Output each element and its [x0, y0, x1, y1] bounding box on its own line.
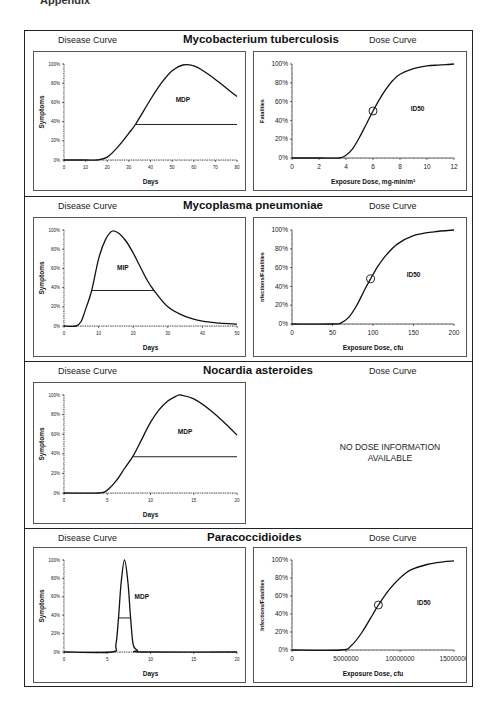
svg-text:0: 0 [63, 657, 66, 662]
svg-text:40%: 40% [51, 613, 60, 618]
svg-text:0%: 0% [53, 650, 60, 655]
svg-text:0%: 0% [53, 324, 60, 329]
svg-text:Days: Days [143, 178, 159, 186]
svg-text:60%: 60% [51, 594, 60, 599]
chart-svg: 0%20%40%60%80%100%0500000010000000150000… [254, 548, 466, 682]
svg-text:10: 10 [423, 163, 431, 170]
svg-text:Symptoms: Symptoms [38, 589, 46, 623]
svg-text:0: 0 [290, 655, 294, 662]
svg-text:12: 12 [450, 163, 458, 170]
svg-text:5000000: 5000000 [333, 655, 359, 662]
svg-text:40%: 40% [275, 117, 288, 124]
svg-text:40%: 40% [275, 283, 288, 290]
appendix-figure-frame: Disease Curve Mycobacterium tuberculosis… [24, 30, 473, 687]
svg-text:Days: Days [143, 511, 159, 519]
svg-text:5: 5 [106, 657, 109, 662]
svg-text:10000000: 10000000 [386, 655, 415, 662]
svg-text:0%: 0% [279, 154, 289, 161]
section-mycobacterium: Disease Curve Mycobacterium tuberculosis… [25, 31, 472, 196]
svg-text:80%: 80% [275, 574, 288, 581]
svg-text:ID50: ID50 [417, 599, 431, 606]
svg-text:50: 50 [170, 165, 176, 170]
svg-text:15000000: 15000000 [440, 655, 466, 662]
svg-text:Fatalities: Fatalities [259, 99, 265, 123]
dose-curve-label: Dose Curve [369, 35, 417, 45]
disease-curve-chart: 0%20%40%60%80%100%05101520DaysSymptomsMD… [33, 382, 246, 524]
svg-text:6: 6 [371, 163, 375, 170]
svg-text:MDP: MDP [176, 96, 191, 103]
svg-text:60%: 60% [51, 432, 60, 437]
disease-curve-label: Disease Curve [58, 35, 117, 45]
svg-text:nfections/Fatalities: nfections/Fatalities [259, 252, 265, 302]
svg-text:60%: 60% [51, 100, 60, 105]
svg-text:Infections/Fatalities: Infections/Fatalities [259, 579, 265, 630]
svg-text:10: 10 [148, 498, 154, 503]
svg-text:0%: 0% [279, 646, 289, 653]
svg-text:50: 50 [234, 331, 240, 336]
dose-curve-label: Dose Curve [369, 366, 417, 376]
svg-text:Days: Days [143, 670, 159, 678]
chart-svg: 0%20%40%60%80%100%01020304050DaysSymptom… [34, 218, 245, 356]
svg-text:10: 10 [83, 165, 89, 170]
svg-text:100%: 100% [271, 556, 288, 563]
svg-text:0: 0 [290, 163, 294, 170]
svg-text:Exposure Dose, mg-min/m³: Exposure Dose, mg-min/m³ [331, 178, 416, 186]
svg-text:ID50: ID50 [407, 271, 421, 278]
svg-text:30: 30 [165, 331, 171, 336]
section-paracoccidioides: Disease Curve Paracoccidioides Dose Curv… [25, 528, 472, 688]
no-dose-line-1: NO DOSE INFORMATION [315, 442, 465, 453]
svg-text:MDP: MDP [135, 593, 150, 600]
svg-text:100%: 100% [48, 393, 60, 398]
section-title: Nocardia asteroides [203, 364, 313, 376]
svg-text:0%: 0% [279, 320, 289, 327]
svg-text:50: 50 [329, 329, 337, 336]
svg-text:80%: 80% [275, 79, 288, 86]
chart-svg: 0%20%40%60%80%100%01020304050607080DaysS… [34, 52, 245, 190]
svg-text:40%: 40% [51, 285, 60, 290]
svg-text:40%: 40% [51, 451, 60, 456]
svg-text:100%: 100% [48, 558, 60, 563]
svg-text:100%: 100% [48, 62, 60, 67]
svg-text:0: 0 [63, 331, 66, 336]
svg-text:20%: 20% [51, 138, 60, 143]
svg-text:30: 30 [126, 165, 132, 170]
disease-curve-chart: 0%20%40%60%80%100%01020304050DaysSymptom… [33, 217, 246, 357]
svg-text:60%: 60% [275, 98, 288, 105]
disease-curve-chart: 0%20%40%60%80%100%05101520DaysSymptomsMD… [33, 547, 246, 683]
svg-text:40%: 40% [51, 119, 60, 124]
disease-curve-label: Disease Curve [58, 201, 117, 211]
svg-text:60%: 60% [51, 266, 60, 271]
svg-text:20%: 20% [51, 631, 60, 636]
dose-curve-chart: 0%20%40%60%80%100%024681012Exposure Dose… [253, 51, 467, 191]
svg-text:20%: 20% [275, 135, 288, 142]
svg-text:80%: 80% [51, 81, 60, 86]
svg-text:Symptoms: Symptoms [38, 427, 46, 461]
svg-text:Symptoms: Symptoms [38, 95, 46, 129]
svg-text:70: 70 [213, 165, 219, 170]
disease-curve-chart: 0%20%40%60%80%100%01020304050607080DaysS… [33, 51, 246, 191]
no-dose-line-2: AVAILABLE [315, 453, 465, 464]
svg-text:0%: 0% [53, 491, 60, 496]
chart-svg: 0%20%40%60%80%100%024681012Exposure Dose… [254, 52, 466, 190]
svg-text:0%: 0% [53, 158, 60, 163]
chart-svg: 0%20%40%60%80%100%050100150200Exposure D… [254, 218, 466, 356]
svg-text:20%: 20% [275, 628, 288, 635]
svg-text:Exposure Dose, cfu: Exposure Dose, cfu [343, 670, 404, 678]
svg-text:MDP: MDP [178, 428, 193, 435]
svg-text:80%: 80% [275, 245, 288, 252]
svg-text:10: 10 [148, 657, 154, 662]
svg-text:80%: 80% [51, 412, 60, 417]
dose-curve-chart: 0%20%40%60%80%100%0500000010000000150000… [253, 547, 467, 683]
svg-text:40: 40 [200, 331, 206, 336]
section-title: Mycobacterium tuberculosis [183, 33, 339, 45]
svg-text:20: 20 [105, 165, 111, 170]
svg-text:15: 15 [191, 498, 197, 503]
chart-svg: 0%20%40%60%80%100%05101520DaysSymptomsMD… [34, 548, 245, 682]
svg-text:ID50: ID50 [411, 105, 425, 112]
svg-text:Exposure Dose, cfu: Exposure Dose, cfu [343, 344, 404, 352]
svg-text:80%: 80% [51, 247, 60, 252]
svg-text:20%: 20% [275, 301, 288, 308]
section-mycoplasma: Disease Curve Mycoplasma pneumoniae Dose… [25, 196, 472, 361]
svg-text:5: 5 [106, 498, 109, 503]
page-header-fragment: Appendix [40, 0, 90, 6]
